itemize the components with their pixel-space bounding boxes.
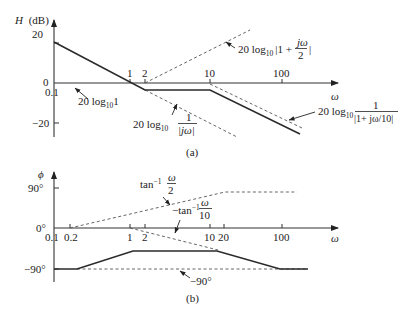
svg-text:|jω|: |jω| xyxy=(178,124,195,136)
caption-b: (b) xyxy=(186,292,199,305)
phase-x-tick-0.2: 0.2 xyxy=(64,231,78,243)
phase-x-label: ω xyxy=(331,232,339,244)
svg-text:ω: ω xyxy=(201,196,209,208)
bode-diagram: H (dB) ω 20 0 −20 0.1 1 2 10 100 20 log1… xyxy=(0,0,415,320)
phase-plot: ϕ ω 90° 0° −90° 0.1 0.2 1 2 10 20 100 ta… xyxy=(24,168,339,305)
svg-text:10: 10 xyxy=(199,209,211,221)
magnitude-y-tick-minus20: −20 xyxy=(32,117,50,129)
svg-text:1: 1 xyxy=(373,99,379,111)
phase-x-tick-1: 1 xyxy=(127,231,133,243)
phase-x-tick-10: 10 xyxy=(204,231,216,243)
magnitude-x-tick-1: 1 xyxy=(127,67,133,79)
zero-term-label: 20 log10|1 + jω 2 | xyxy=(238,36,311,61)
phase-total-curve xyxy=(54,251,308,269)
pole-term-label: 20 log10 1 |1+ jω/10| xyxy=(318,99,398,124)
caption-a: (a) xyxy=(186,146,199,159)
svg-text:20 log10: 20 log10 xyxy=(318,105,354,120)
magnitude-x-label: ω xyxy=(331,90,339,102)
zero-phase-label: tan−1 ω 2 xyxy=(140,171,176,196)
phase-x-tick-100: 100 xyxy=(273,231,290,243)
phase-x-tick-0.1: 0.1 xyxy=(45,231,59,243)
magnitude-total-curve xyxy=(54,42,300,134)
magnitude-y-label: H (dB) xyxy=(14,14,49,27)
svg-text:−tan−1: −tan−1 xyxy=(172,203,200,216)
magnitude-x-tick-100: 100 xyxy=(273,67,290,79)
magnitude-y-tick-20: 20 xyxy=(32,28,44,40)
magnitude-x-tick-0.1: 0.1 xyxy=(45,86,59,98)
phase-y-tick-90: 90° xyxy=(28,182,43,194)
svg-text:2: 2 xyxy=(298,49,304,61)
phase-y-tick-minus90: −90° xyxy=(24,263,46,275)
phase-x-tick-2: 2 xyxy=(142,231,148,243)
magnitude-x-tick-2: 2 xyxy=(142,67,148,79)
svg-text:|1+ jω/10|: |1+ jω/10| xyxy=(354,113,393,124)
pole-phase-label: −tan−1 ω 10 xyxy=(172,196,212,221)
pole-asymptote-line xyxy=(210,84,302,128)
const-term-label: 20 log101 xyxy=(78,95,119,110)
integrator-term-label: 20 log10 1 |jω| xyxy=(133,111,197,136)
svg-text:1: 1 xyxy=(186,111,192,123)
svg-text:|: | xyxy=(309,43,311,55)
svg-text:jω: jω xyxy=(295,36,308,48)
zero-asymptote-line xyxy=(145,30,250,83)
svg-text:2: 2 xyxy=(168,184,174,196)
svg-text:ω: ω xyxy=(168,171,176,183)
svg-text:tan−1: tan−1 xyxy=(140,177,162,190)
svg-text:20 log10: 20 log10 xyxy=(133,118,169,133)
magnitude-plot: H (dB) ω 20 0 −20 0.1 1 2 10 100 20 log1… xyxy=(14,14,398,159)
phase-y-label: ϕ xyxy=(38,168,44,180)
phase-x-tick-20: 20 xyxy=(218,231,230,243)
svg-text:20 log10|1 +: 20 log10|1 + xyxy=(238,43,292,58)
integrator-phase-label: −90° xyxy=(190,275,212,287)
magnitude-x-tick-10: 10 xyxy=(204,67,216,79)
